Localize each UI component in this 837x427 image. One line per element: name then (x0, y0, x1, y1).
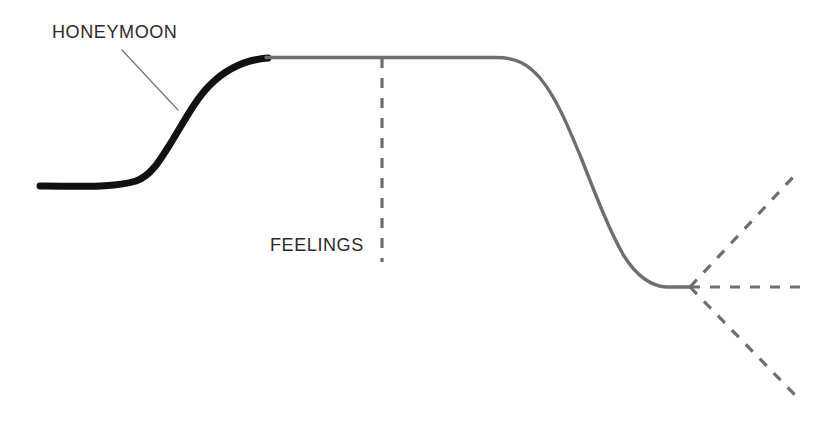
branch-down-dashed-line (690, 287, 796, 396)
honeymoon-solid-curve (40, 58, 268, 186)
branch-up-dashed-line (690, 174, 796, 287)
feelings-label: FEELINGS (270, 235, 364, 254)
honeymoon-label: HONEYMOON (52, 22, 177, 41)
curve-canvas (0, 0, 837, 427)
honeymoon-curve-diagram: HONEYMOON FEELINGS (0, 0, 837, 427)
honeymoon-leader-line (122, 50, 178, 110)
